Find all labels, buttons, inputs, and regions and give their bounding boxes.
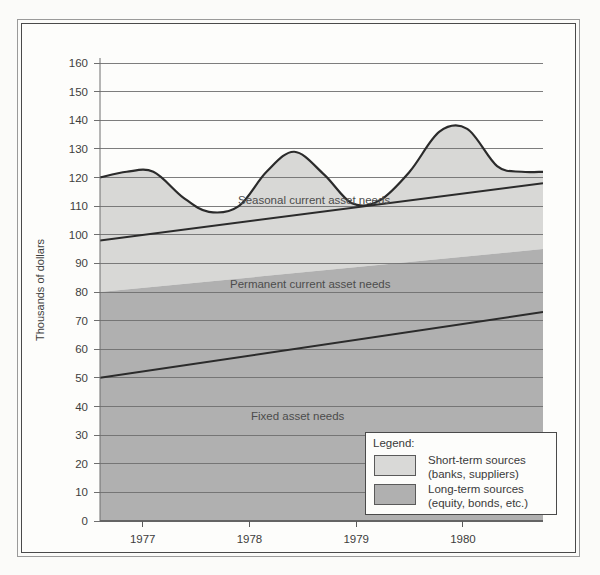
y-tick-label-120: 120 [69, 172, 88, 184]
fixed-band-label: Fixed asset needs [251, 410, 345, 422]
y-tick-label-150: 150 [69, 86, 88, 98]
y-tick-label-160: 160 [69, 57, 88, 69]
y-tick-label-140: 140 [69, 114, 88, 126]
x-tick-label-1980: 1980 [450, 533, 476, 545]
y-tick-label-20: 20 [75, 458, 88, 470]
x-axis-tick-marks [143, 521, 463, 527]
y-tick-label-10: 10 [75, 486, 88, 498]
legend-label-short-term-line1: Short-term sources [428, 454, 526, 468]
x-tick-label-1977: 1977 [130, 533, 156, 545]
y-tick-label-110: 110 [70, 200, 88, 212]
y-axis-title: Thousands of dollars [34, 238, 46, 341]
chart-page: 0102030405060708090100110120130140150160… [0, 0, 600, 575]
y-tick-label-40: 40 [75, 401, 88, 413]
y-tick-label-50: 50 [75, 372, 88, 384]
y-axis-tick-marks [94, 63, 100, 521]
legend-label-long-term-line2: (equity, bonds, etc.) [428, 497, 528, 511]
y-tick-label-90: 90 [75, 257, 88, 269]
legend: Legend: Short-term sources (banks, suppl… [365, 432, 557, 515]
legend-label-short-term-line2: (banks, suppliers) [428, 468, 526, 482]
legend-swatch-short-term [374, 455, 416, 476]
legend-label-short-term: Short-term sources (banks, suppliers) [428, 454, 526, 481]
seasonal-band-label: Seasonal current asset needs [238, 194, 390, 206]
x-tick-label-1979: 1979 [343, 533, 369, 545]
y-tick-label-80: 80 [75, 286, 88, 298]
y-tick-label-70: 70 [75, 315, 88, 327]
y-tick-label-0: 0 [82, 515, 88, 527]
legend-label-long-term-line1: Long-term sources [428, 483, 528, 497]
legend-title: Legend: [373, 437, 415, 449]
legend-swatch-long-term [374, 484, 416, 505]
y-tick-label-60: 60 [75, 343, 88, 355]
legend-item-short-term: Short-term sources (banks, suppliers) [374, 454, 526, 481]
y-axis-tick-labels: 0102030405060708090100110120130140150160 [69, 57, 88, 527]
y-tick-label-100: 100 [69, 229, 88, 241]
legend-label-long-term: Long-term sources (equity, bonds, etc.) [428, 483, 528, 510]
legend-item-long-term: Long-term sources (equity, bonds, etc.) [374, 483, 528, 510]
y-tick-label-130: 130 [69, 143, 88, 155]
x-axis-tick-labels: 1977197819791980 [130, 533, 476, 545]
y-tick-label-30: 30 [75, 429, 88, 441]
permanent-band-label: Permanent current asset needs [230, 278, 391, 290]
x-tick-label-1978: 1978 [237, 533, 263, 545]
